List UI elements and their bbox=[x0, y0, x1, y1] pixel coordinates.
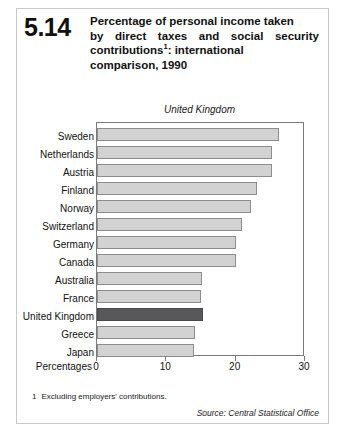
plot-area bbox=[96, 122, 304, 356]
bar bbox=[97, 290, 201, 303]
bar-row bbox=[97, 198, 303, 216]
figure-panel: 5.14 Percentage of personal income taken… bbox=[0, 0, 345, 437]
bar-row bbox=[97, 162, 303, 180]
bar bbox=[97, 254, 236, 267]
bar-row bbox=[97, 234, 303, 252]
footnote: 1Excluding employers' contributions. bbox=[32, 392, 167, 401]
bar bbox=[97, 128, 279, 141]
bar bbox=[97, 164, 272, 177]
figure-number: 5.14 bbox=[24, 15, 90, 40]
source-note: Source: Central Statistical Office bbox=[197, 408, 319, 418]
category-label: Canada bbox=[59, 254, 94, 272]
category-label: Norway bbox=[60, 200, 94, 218]
category-label: United Kingdom bbox=[23, 308, 94, 326]
bar bbox=[97, 200, 251, 213]
axis-tick-label: 0 bbox=[93, 361, 99, 372]
axis-tick-label: 10 bbox=[160, 361, 171, 372]
category-label: Netherlands bbox=[40, 146, 94, 164]
axis-title: Percentages bbox=[22, 361, 92, 372]
figure-header: 5.14 Percentage of personal income taken… bbox=[16, 10, 329, 88]
value-axis: 0102030 bbox=[96, 356, 304, 364]
title-line-3-rest: : international bbox=[168, 44, 244, 56]
bar-row bbox=[97, 306, 303, 324]
category-label: Austria bbox=[63, 164, 94, 182]
category-label: Switzerland bbox=[42, 218, 94, 236]
bar-row bbox=[97, 216, 303, 234]
category-label: Germany bbox=[53, 236, 94, 254]
title-line-3: contributions1: international bbox=[90, 43, 319, 58]
title-line-2: bydirecttaxesandsocialsecurity bbox=[90, 29, 319, 44]
bar-row bbox=[97, 324, 303, 342]
bar bbox=[97, 182, 257, 195]
bar-row bbox=[97, 180, 303, 198]
title-line-4: comparison, 1990 bbox=[90, 58, 319, 73]
bar bbox=[97, 218, 242, 231]
category-label: Greece bbox=[61, 326, 94, 344]
bar-row bbox=[97, 144, 303, 162]
chart-plot: SwedenNetherlandsAustriaFinlandNorwaySwi… bbox=[22, 122, 312, 362]
bar bbox=[97, 146, 272, 159]
footnote-text: Excluding employers' contributions. bbox=[41, 392, 166, 401]
bar bbox=[97, 236, 236, 249]
category-label: Australia bbox=[55, 272, 94, 290]
category-label: Sweden bbox=[58, 128, 94, 146]
title-line-1: Percentage of personal income taken bbox=[90, 14, 319, 29]
bar-row bbox=[97, 270, 303, 288]
figure-title: Percentage of personal income taken bydi… bbox=[90, 14, 319, 72]
category-label: Finland bbox=[61, 182, 94, 200]
category-label: France bbox=[63, 290, 94, 308]
title-line-3-text: contributions bbox=[90, 44, 163, 56]
bar-row bbox=[97, 288, 303, 306]
chart-annotation: United Kingdom bbox=[96, 104, 303, 115]
axis-tick-label: 30 bbox=[298, 361, 309, 372]
bar bbox=[97, 308, 203, 321]
bar-row bbox=[97, 252, 303, 270]
bar bbox=[97, 326, 195, 339]
footnote-number: 1 bbox=[32, 392, 36, 401]
category-label: Japan bbox=[67, 344, 94, 362]
bar-row bbox=[97, 126, 303, 144]
category-axis-labels: SwedenNetherlandsAustriaFinlandNorwaySwi… bbox=[22, 125, 94, 359]
bar bbox=[97, 272, 202, 285]
axis-tick-label: 20 bbox=[229, 361, 240, 372]
